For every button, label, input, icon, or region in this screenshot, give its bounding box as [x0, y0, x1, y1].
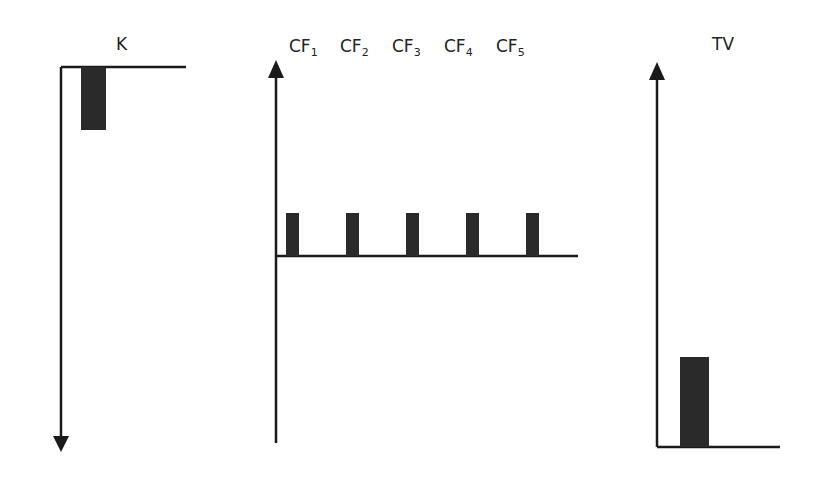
- cf-bar-2: [346, 213, 359, 256]
- cf-label-1: CF1: [289, 36, 318, 59]
- cf-label-3: CF3: [392, 36, 421, 59]
- cf-label-4: CF4: [444, 36, 473, 59]
- tv-panel: [649, 62, 780, 447]
- arrow-up-icon: [649, 62, 665, 80]
- cf-bar-4: [466, 213, 479, 256]
- cf-label-5: CF5: [496, 36, 525, 59]
- diagram-canvas: [0, 0, 816, 482]
- cf-bar-5: [526, 213, 539, 256]
- cf-bar-3: [406, 213, 419, 256]
- cf-bar-1: [286, 213, 299, 256]
- cf-panel: [268, 60, 578, 443]
- k-panel: [53, 67, 186, 452]
- arrow-down-icon: [53, 436, 69, 452]
- arrow-up-icon: [268, 60, 284, 78]
- tv-bar: [680, 357, 709, 447]
- k-bar: [81, 67, 106, 130]
- cf-label-2: CF2: [340, 36, 369, 59]
- k-label: K: [116, 34, 127, 54]
- tv-label: TV: [712, 34, 734, 54]
